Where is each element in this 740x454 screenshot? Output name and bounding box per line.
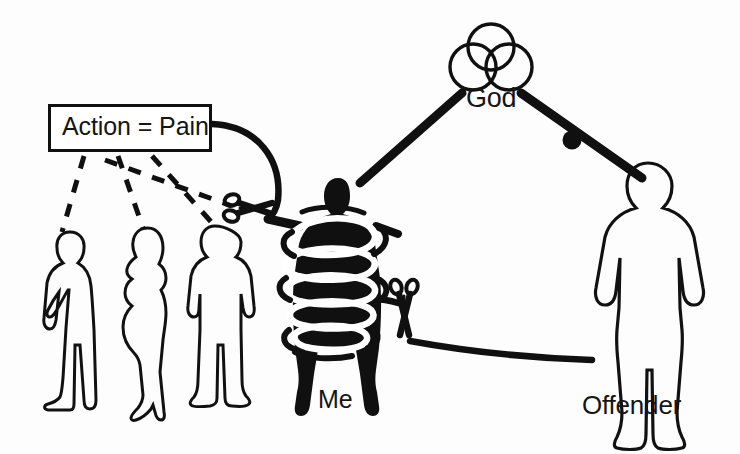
offender-label: Offender bbox=[582, 390, 681, 421]
diagram-canvas bbox=[0, 0, 740, 454]
god-label: God bbox=[466, 83, 516, 114]
action-pain-label: Action = Pain bbox=[62, 112, 209, 141]
trinity-three-circles-icon bbox=[450, 24, 532, 90]
me-label: Me bbox=[318, 385, 353, 414]
connection-god-to-me bbox=[360, 93, 462, 183]
dashed-line-to-bystander-1 bbox=[62, 156, 84, 232]
bystander-1-figure bbox=[44, 232, 96, 410]
knot-marker-icon bbox=[563, 131, 582, 150]
connection-me-to-offender bbox=[356, 299, 592, 360]
bystander-3-figure bbox=[188, 226, 254, 407]
dashed-connections-group bbox=[62, 156, 232, 232]
scissors-vertical-icon bbox=[388, 278, 419, 335]
forgiveness-diagram: Action = Pain God Me Offender bbox=[0, 0, 740, 454]
connection-god-to-offender bbox=[521, 93, 642, 178]
me-figure bbox=[268, 178, 398, 416]
bystander-2-figure bbox=[123, 228, 166, 420]
